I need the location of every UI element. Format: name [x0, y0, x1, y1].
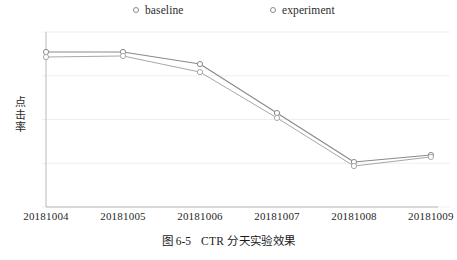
data-point-experiment-20181007[interactable] [274, 115, 279, 120]
data-point-baseline-20181004[interactable] [43, 49, 48, 54]
x-axis-tick-label: 20181004 [23, 210, 69, 222]
y-axis-label: 点 击 率 [12, 96, 28, 134]
data-point-experiment-20181004[interactable] [43, 54, 48, 59]
x-axis-tick-labels: 2018100420181005201810062018100720181008… [0, 210, 457, 228]
figure-ctr-daily-experiment: baseline experiment 点 击 率 20181004201810… [0, 0, 457, 260]
data-point-experiment-20181005[interactable] [120, 53, 125, 58]
data-point-experiment-20181006[interactable] [197, 69, 202, 74]
series-baseline [43, 49, 433, 164]
y-axis-label-char: 率 [12, 121, 28, 134]
series-line-baseline [46, 52, 431, 162]
data-point-baseline-20181006[interactable] [197, 61, 202, 66]
data-point-experiment-20181009[interactable] [428, 154, 433, 159]
y-axis-label-char: 点 [12, 96, 28, 109]
figure-caption-number: 图 6-5 [162, 235, 191, 247]
plot-area [0, 0, 457, 215]
x-axis-tick-label: 20181007 [254, 210, 300, 222]
data-series-layer [43, 49, 433, 168]
series-experiment [43, 53, 433, 168]
figure-caption: 图 6-5CTR 分天实验效果 [0, 232, 457, 248]
y-axis-label-char: 击 [12, 109, 28, 122]
line-chart-svg [0, 0, 457, 215]
x-axis-tick-label: 20181006 [177, 210, 223, 222]
x-axis-tick-label: 20181009 [408, 210, 454, 222]
x-axis-tick-label: 20181008 [331, 210, 377, 222]
gridlines [42, 32, 450, 207]
figure-caption-text: CTR 分天实验效果 [201, 235, 295, 247]
data-point-experiment-20181008[interactable] [351, 163, 356, 168]
x-axis-tick-label: 20181005 [100, 210, 146, 222]
series-line-experiment [46, 56, 431, 166]
